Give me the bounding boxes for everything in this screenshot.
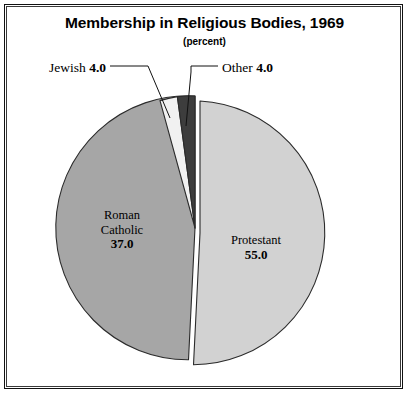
slice-label-protestant-value: 55.0 <box>245 247 268 262</box>
callout-label-other: Other 4.0 <box>222 60 273 76</box>
slice-label-catholic-value: 37.0 <box>111 236 134 251</box>
slice-label-catholic-line2: Catholic <box>76 223 168 238</box>
slice-label-roman-catholic: Roman Catholic 37.0 <box>76 208 168 252</box>
chart-page: Membership in Religious Bodies, 1969 (pe… <box>0 0 409 395</box>
slice-label-protestant-name: Protestant <box>208 233 304 248</box>
slice-label-protestant: Protestant 55.0 <box>208 233 304 262</box>
slice-label-catholic-line1: Roman <box>76 208 168 223</box>
callout-label-jewish: Jewish 4.0 <box>49 60 106 76</box>
callout-jewish-value: 4.0 <box>89 60 106 75</box>
callout-other-name: Other <box>222 60 256 75</box>
callout-jewish-name: Jewish <box>49 60 89 75</box>
callout-other-value: 4.0 <box>256 60 273 75</box>
